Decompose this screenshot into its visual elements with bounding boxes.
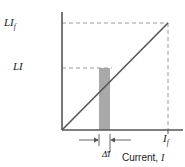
x-axis-label-i-f-subscript: f: [167, 139, 169, 147]
delta-i-label: ΔI: [102, 150, 110, 159]
shaded-strip-delta-i: [99, 68, 110, 130]
flux-linkage-current-figure: LIf LI If ΔI Current, I: [0, 0, 185, 167]
delta-i-label-text: ΔI: [102, 149, 110, 159]
plot-canvas: [0, 0, 185, 167]
data-line-flux-linkage: [62, 23, 168, 130]
x-axis-title-symbol: I: [161, 152, 164, 163]
x-axis-title: Current, I: [122, 153, 164, 163]
y-axis-label-li: LI: [13, 61, 23, 72]
y-axis-label-li-f-text: LI: [4, 16, 14, 28]
y-axis-label-li-f-subscript: f: [14, 23, 16, 31]
y-axis-label-li-text: LI: [13, 60, 23, 72]
x-axis-label-i-f: If: [163, 133, 169, 147]
x-axis-title-text: Current,: [122, 152, 161, 163]
y-axis-label-li-f: LIf: [4, 17, 16, 31]
